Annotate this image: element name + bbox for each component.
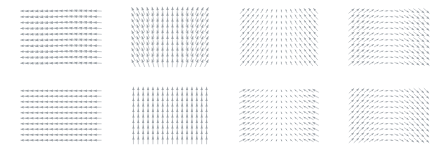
quiver-arrow bbox=[314, 49, 318, 54]
arrow-head-icon bbox=[416, 39, 419, 41]
quiver-arrow bbox=[256, 38, 259, 42]
quiver-arrow bbox=[240, 37, 244, 42]
quiver-arrow bbox=[240, 117, 246, 120]
arrow-head-icon bbox=[79, 139, 82, 141]
quiver-arrow bbox=[354, 26, 359, 30]
arrow-head-icon bbox=[142, 31, 144, 34]
quiver-arrow bbox=[385, 112, 388, 113]
quiver-arrow bbox=[276, 140, 277, 142]
arrow-head-icon bbox=[50, 95, 53, 97]
arrow-head-icon bbox=[60, 39, 63, 42]
quiver-arrow bbox=[359, 38, 365, 42]
quiver-arrow bbox=[142, 137, 144, 144]
arrow-head-icon bbox=[166, 7, 169, 10]
quiver-arrow bbox=[240, 8, 244, 13]
arrow-head-icon bbox=[196, 87, 198, 90]
quiver-arrow bbox=[271, 21, 272, 24]
quiver-arrow bbox=[250, 95, 254, 97]
quiver-arrow bbox=[364, 111, 369, 115]
arrow-head-icon bbox=[50, 123, 53, 125]
quiver-arrow bbox=[349, 127, 354, 132]
arrow-head-icon bbox=[271, 39, 272, 41]
quiver-arrow bbox=[354, 122, 359, 126]
quiver-arrow bbox=[245, 32, 249, 37]
arrow-head-icon bbox=[147, 115, 149, 118]
arrow-head-icon bbox=[132, 120, 134, 123]
quiver-canvas bbox=[240, 88, 318, 143]
quiver-arrow bbox=[276, 33, 277, 35]
quiver-arrow bbox=[276, 90, 277, 92]
quiver-arrow bbox=[424, 26, 429, 30]
quiver-arrow bbox=[271, 27, 272, 30]
quiver-arrow bbox=[364, 138, 369, 142]
arrow-head-icon bbox=[55, 117, 58, 119]
arrow-head-icon bbox=[171, 19, 174, 22]
quiver-arrow bbox=[94, 90, 101, 92]
quiver-arrow bbox=[419, 105, 424, 109]
arrow-head-icon bbox=[147, 137, 149, 140]
arrow-head-icon bbox=[50, 117, 53, 119]
quiver-arrow bbox=[276, 112, 277, 114]
arrow-head-icon bbox=[60, 123, 63, 125]
quiver-arrow bbox=[266, 27, 268, 30]
quiver-arrow bbox=[364, 116, 369, 120]
quiver-arrow bbox=[349, 110, 354, 115]
quiver-arrow bbox=[286, 39, 287, 42]
quiver-arrow bbox=[385, 118, 388, 119]
quiver-arrow bbox=[276, 62, 277, 64]
quiver-arrow bbox=[349, 138, 354, 143]
quiver-arrow bbox=[94, 33, 102, 36]
quiver-arrow bbox=[300, 55, 303, 59]
arrow-head-icon bbox=[382, 57, 384, 58]
quiver-arrow bbox=[349, 88, 354, 93]
quiver-arrow bbox=[186, 7, 189, 14]
quiver-arrow bbox=[390, 112, 393, 113]
quiver-panel-4 bbox=[22, 88, 100, 143]
quiver-arrow bbox=[414, 26, 420, 30]
quiver-arrow bbox=[290, 50, 292, 53]
arrow-head-icon bbox=[157, 137, 159, 140]
quiver-arrow bbox=[354, 138, 359, 142]
quiver-arrow bbox=[390, 123, 393, 124]
quiver-arrow bbox=[354, 89, 359, 93]
arrow-head-icon bbox=[31, 134, 34, 136]
quiver-arrow bbox=[414, 116, 419, 120]
arrow-head-icon bbox=[196, 98, 198, 101]
quiver-arrow bbox=[414, 20, 420, 24]
quiver-arrow bbox=[276, 107, 277, 109]
quiver-arrow bbox=[290, 33, 292, 36]
arrow-head-icon bbox=[79, 90, 82, 92]
quiver-arrow bbox=[137, 60, 140, 67]
arrow-head-icon bbox=[94, 33, 97, 36]
quiver-arrow bbox=[349, 49, 354, 53]
quiver-arrow bbox=[266, 38, 268, 41]
arrow-head-icon bbox=[196, 42, 198, 45]
arrow-head-icon bbox=[55, 44, 58, 47]
quiver-arrow bbox=[424, 132, 429, 137]
arrow-head-icon bbox=[382, 16, 384, 17]
quiver-arrow bbox=[375, 33, 379, 35]
arrow-head-icon bbox=[74, 134, 77, 136]
quiver-arrow bbox=[424, 9, 429, 13]
quiver-arrow bbox=[409, 9, 414, 12]
quiver-arrow bbox=[304, 117, 308, 119]
arrow-head-icon bbox=[396, 107, 398, 108]
quiver-arrow bbox=[240, 32, 244, 37]
arrow-head-icon bbox=[396, 90, 398, 91]
arrow-head-icon bbox=[152, 137, 154, 140]
quiver-arrow bbox=[256, 9, 259, 13]
arrow-head-icon bbox=[94, 134, 97, 136]
quiver-arrow bbox=[281, 56, 282, 58]
arrow-head-icon bbox=[89, 123, 92, 125]
quiver-arrow bbox=[261, 55, 263, 59]
quiver-arrow bbox=[205, 13, 208, 20]
quiver-arrow bbox=[250, 117, 254, 119]
arrow-head-icon bbox=[381, 134, 383, 135]
quiver-arrow bbox=[364, 27, 369, 30]
arrow-head-icon bbox=[396, 129, 398, 130]
quiver-arrow bbox=[313, 128, 319, 131]
arrow-head-icon bbox=[147, 126, 149, 129]
arrow-head-icon bbox=[35, 117, 38, 119]
arrow-head-icon bbox=[171, 42, 174, 45]
arrow-head-icon bbox=[361, 38, 364, 41]
